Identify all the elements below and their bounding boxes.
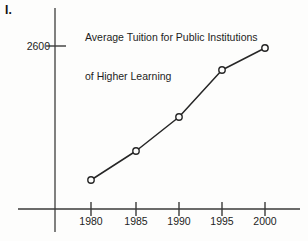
data-point-markers bbox=[88, 45, 268, 183]
x-axis-label-1995: 1995 bbox=[200, 216, 244, 227]
data-point-2000 bbox=[262, 45, 268, 51]
figure-container: I. Average Tuition for Public Institutio… bbox=[0, 0, 308, 241]
data-point-1980 bbox=[88, 177, 94, 183]
x-axis-label-1990: 1990 bbox=[157, 216, 201, 227]
x-axis-label-2000: 2000 bbox=[243, 216, 287, 227]
data-point-1985 bbox=[133, 148, 139, 154]
data-point-1990 bbox=[176, 114, 182, 120]
x-axis-label-1985: 1985 bbox=[114, 216, 158, 227]
x-axis-label-1980: 1980 bbox=[69, 216, 113, 227]
data-point-1995 bbox=[219, 67, 225, 73]
line-chart-plot bbox=[0, 0, 308, 241]
y-axis-label-2600: 2600 bbox=[0, 41, 50, 52]
